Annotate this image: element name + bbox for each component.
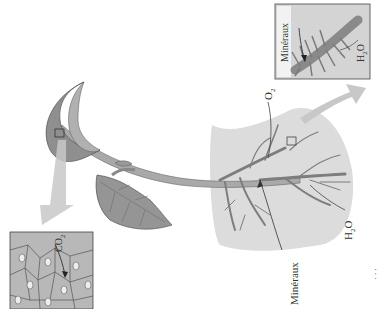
- mineraux-inset-label: Minéraux: [279, 23, 290, 62]
- root-hair-inset: Minéraux H2O: [275, 4, 370, 79]
- h2o-root-label: H2O: [342, 221, 357, 240]
- arrow-to-root-inset: [300, 84, 366, 124]
- plant-diagram: O2 Minéraux H2O CO2: [0, 0, 379, 309]
- margin-marks: · · ·: [371, 268, 379, 280]
- upper-leaf: [46, 82, 100, 162]
- o2-label: O2: [262, 88, 277, 100]
- leaf-stomata-inset: CO2: [10, 232, 93, 309]
- mineraux-root-label: Minéraux: [288, 262, 300, 305]
